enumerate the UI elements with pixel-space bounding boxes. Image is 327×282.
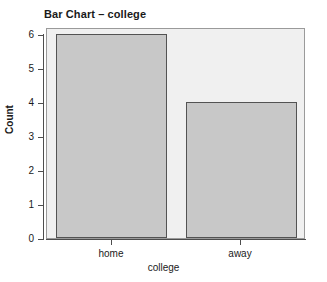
chart-title: Bar Chart – college: [44, 8, 146, 20]
y-tick-label-3: 3: [10, 132, 34, 142]
y-tick-1: [38, 205, 43, 206]
y-axis-title-label: Count: [4, 105, 15, 134]
plot-area: [47, 29, 304, 238]
x-tick-label-home: home: [98, 248, 123, 259]
plot-panel: [46, 28, 305, 239]
y-tick-5: [38, 69, 43, 70]
bar-home: [56, 34, 167, 238]
y-tick-4: [38, 103, 43, 104]
y-tick-label-2: 2: [10, 166, 34, 176]
x-tick-away: [240, 240, 241, 245]
y-tick-label-1: 1: [10, 200, 34, 210]
x-tick-home: [111, 240, 112, 245]
y-tick-label-5: 5: [10, 64, 34, 74]
bar-away: [186, 102, 297, 238]
y-tick-6: [38, 35, 43, 36]
y-tick-label-6: 6: [10, 30, 34, 40]
x-axis-line: [46, 239, 306, 240]
y-tick-2: [38, 171, 43, 172]
y-axis-line: [43, 34, 44, 240]
y-tick-3: [38, 137, 43, 138]
x-tick-label-away: away: [228, 248, 251, 259]
y-tick-label-0: 0: [10, 234, 34, 244]
bar-chart-figure: Bar Chart – college Count 0123456 homeaw…: [0, 0, 327, 282]
y-tick-label-4: 4: [10, 98, 34, 108]
x-axis-title: college: [0, 262, 327, 273]
y-tick-0: [38, 239, 43, 240]
